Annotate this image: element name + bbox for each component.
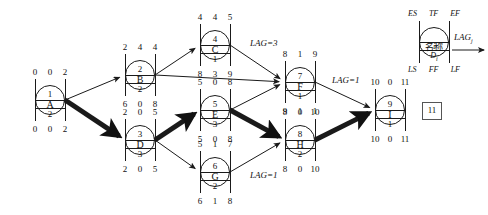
node-ls: 6 [193,196,207,206]
lag-label-g-h: LAG=1 [250,170,278,180]
node-duration: 3 [200,118,230,130]
node-right-bar [405,89,406,131]
node-ef: 4 [148,42,162,52]
node-ef: 10 [308,107,322,117]
node-right-bar [155,54,156,96]
node-top-values: 508 [193,76,237,87]
node-ff: 0 [43,124,57,134]
node-top-values: 445 [193,11,237,22]
legend-tf-label: TF [429,9,438,18]
node-duration: 1 [375,118,405,130]
legend-lag-label: LAGj [454,32,473,44]
legend-right-bar [449,21,450,63]
node-bottom-values: 618 [193,195,237,206]
node-right-bar [230,24,231,66]
lag-label-c-f: LAG=3 [250,38,278,48]
node-es: 8 [278,49,292,59]
edge-e-to-h-critical [230,110,279,137]
node-ff: 0 [133,164,147,174]
node-ef: 5 [223,12,237,22]
legend-top-labels: ES TF EF [408,9,460,18]
node-right-bar [230,89,231,131]
node-duration: 1 [285,90,315,102]
edge-e-to-f [230,85,280,110]
node-duration: 2 [125,83,155,95]
node-duration: 2 [35,108,65,120]
node-tf: 0 [43,67,57,77]
node-ef: 8 [223,77,237,87]
node-lf: 5 [148,164,162,174]
node-ls: 0 [28,124,42,134]
node-es: 0 [28,67,42,77]
node-lf: 8 [223,196,237,206]
node-tf: 0 [208,77,222,87]
node-top-values: 002 [28,66,72,77]
node-duration: 1 [200,53,230,65]
node-ls: 8 [278,164,292,174]
node-es: 5 [193,139,207,149]
node-right-bar [315,61,316,103]
edge-c-to-f [230,45,280,79]
node-bottom-values: 205 [118,163,162,174]
node-es: 5 [193,77,207,87]
legend-ef-label: EF [450,9,460,18]
node-duration: 2 [285,148,315,160]
node-duration: 2 [200,180,230,192]
node-right-bar [155,119,156,161]
node-top-values: 517 [193,138,237,149]
node-es: 10 [368,77,382,87]
node-ff: 0 [383,134,397,144]
node-ff: 1 [208,196,222,206]
node-top-values: 8010 [278,106,322,117]
project-finish-box: 11 [422,102,442,120]
node-ls: 10 [368,134,382,144]
node-right-bar [230,151,231,193]
node-es: 2 [118,107,132,117]
node-tf: 0 [383,77,397,87]
node-ef: 5 [148,107,162,117]
node-es: 8 [278,107,292,117]
node-bottom-values: 002 [28,123,72,134]
edge-a-to-b [65,77,119,100]
node-duration: 3 [125,148,155,160]
edge-g-to-h [230,143,280,172]
node-right-bar [65,79,66,121]
legend-duration: Di [419,50,449,62]
legend-arrow-icon [452,44,488,56]
node-lf: 2 [58,124,72,134]
edge-h-to-i-critical [315,113,369,140]
node-top-values: 205 [118,106,162,117]
network-diagram-canvas: 1A20020022B22446083D32052054C14458395E35… [0,0,488,215]
node-bottom-values: 10011 [368,133,412,144]
node-ls: 2 [118,164,132,174]
node-ef: 11 [398,77,412,87]
node-ff: 0 [293,164,307,174]
node-lf: 11 [398,134,412,144]
node-es: 2 [118,42,132,52]
node-ef: 9 [308,49,322,59]
edge-f-to-i [315,82,370,107]
node-top-values: 819 [278,48,322,59]
node-ef: 7 [223,139,237,149]
node-top-values: 244 [118,41,162,52]
node-tf: 0 [293,107,307,117]
edge-a-to-d-critical [65,100,119,136]
edge-b-to-c [155,48,195,75]
node-top-values: 10011 [368,76,412,87]
node-tf: 4 [133,42,147,52]
node-right-bar [315,119,316,161]
legend-ff-label: FF [429,65,439,74]
legend-es-label: ES [408,9,417,18]
node-tf: 0 [133,107,147,117]
node-lf: 10 [308,164,322,174]
node-ef: 2 [58,67,72,77]
legend-bottom-labels: LS FF LF [408,65,460,74]
node-bottom-values: 8010 [278,163,322,174]
node-tf: 1 [293,49,307,59]
edge-d-to-e-critical [155,114,194,140]
lag-label-f-i: LAG=1 [332,75,360,85]
node-tf: 4 [208,12,222,22]
node-tf: 1 [208,139,222,149]
legend-ls-label: LS [408,65,416,74]
node-es: 4 [193,12,207,22]
